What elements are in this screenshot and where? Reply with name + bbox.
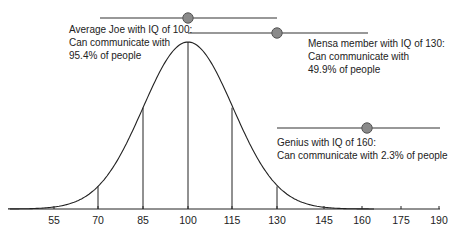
annotation-average-line1: Average Joe with IQ of 100: [69, 23, 192, 36]
range-slider-genius [277, 123, 440, 133]
range-slider-average [100, 13, 277, 23]
tick-label-145: 145 [315, 214, 333, 226]
tick-label-70: 70 [92, 214, 104, 226]
tick-label-55: 55 [48, 214, 60, 226]
annotation-average: Average Joe with IQ of 100: Can communic… [69, 23, 192, 62]
slider-knob-mensa [272, 28, 282, 38]
tick-label-115: 115 [224, 214, 241, 226]
tick-label-130: 130 [268, 214, 286, 226]
annotation-mensa-line1: Mensa member with IQ of 130: [308, 37, 445, 50]
tick-label-160: 160 [353, 214, 371, 226]
annotation-genius-line2: Can communicate with 2.3% of people [277, 149, 448, 162]
annotation-mensa: Mensa member with IQ of 130: Can communi… [308, 37, 445, 76]
tick-label-190: 190 [430, 214, 448, 226]
annotation-average-line3: 95.4% of people [69, 49, 192, 62]
annotation-genius-line1: Genius with IQ of 160: [277, 136, 448, 149]
slider-knob-average [183, 13, 193, 23]
annotation-mensa-line2: Can communicate with [308, 50, 445, 63]
tick-label-100: 100 [179, 214, 197, 226]
annotation-genius: Genius with IQ of 160: Can communicate w… [277, 136, 448, 162]
annotation-average-line2: Can communicate with [69, 36, 192, 49]
sd-marker-lines [98, 42, 277, 209]
tick-label-85: 85 [137, 214, 149, 226]
slider-knob-genius [362, 123, 372, 133]
tick-label-175: 175 [392, 214, 410, 226]
annotation-mensa-line3: 49.9% of people [308, 63, 445, 76]
